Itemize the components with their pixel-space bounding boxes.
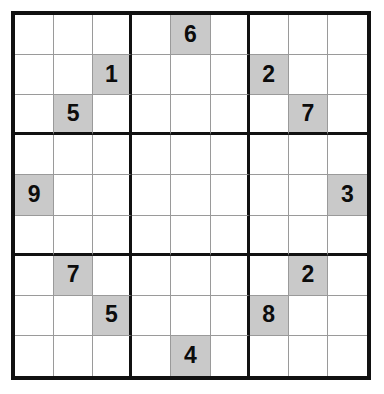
sudoku-cell-value: 2 [301,263,314,287]
sudoku-cell-empty[interactable] [15,95,54,135]
sudoku-cell-empty[interactable] [328,15,367,55]
sudoku-cell-given[interactable]: 7 [289,95,328,135]
sudoku-cell-empty[interactable] [211,175,250,215]
sudoku-cell-empty[interactable] [171,135,210,175]
sudoku-cell-empty[interactable] [250,216,289,256]
sudoku-cell-value: 1 [105,63,118,87]
sudoku-cell-empty[interactable] [15,15,54,55]
sudoku-cell-empty[interactable] [132,336,171,376]
sudoku-cell-empty[interactable] [54,216,93,256]
sudoku-cell-empty[interactable] [171,296,210,336]
sudoku-cell-given[interactable]: 6 [171,15,210,55]
sudoku-cell-empty[interactable] [289,135,328,175]
sudoku-cell-empty[interactable] [211,256,250,296]
sudoku-cell-empty[interactable] [15,336,54,376]
sudoku-cell-empty[interactable] [289,216,328,256]
sudoku-cell-empty[interactable] [171,95,210,135]
sudoku-cell-empty[interactable] [289,55,328,95]
sudoku-cell-empty[interactable] [132,296,171,336]
sudoku-cell-value: 8 [262,303,275,327]
sudoku-cell-empty[interactable] [93,95,132,135]
sudoku-cell-value: 5 [67,102,80,126]
sudoku-cell-value: 7 [67,263,80,287]
sudoku-cell-empty[interactable] [15,216,54,256]
sudoku-cell-empty[interactable] [211,216,250,256]
sudoku-cell-given[interactable]: 9 [15,175,54,215]
sudoku-cell-empty[interactable] [15,55,54,95]
sudoku-cell-empty[interactable] [15,135,54,175]
sudoku-cell-empty[interactable] [54,296,93,336]
sudoku-cell-empty[interactable] [250,135,289,175]
sudoku-cell-given[interactable]: 5 [93,296,132,336]
sudoku-cell-empty[interactable] [171,256,210,296]
sudoku-cell-empty[interactable] [171,55,210,95]
sudoku-cell-empty[interactable] [93,336,132,376]
sudoku-cell-empty[interactable] [93,216,132,256]
sudoku-cell-empty[interactable] [54,15,93,55]
sudoku-board: 612579372584 [11,11,371,380]
sudoku-cell-empty[interactable] [328,256,367,296]
sudoku-cell-empty[interactable] [211,336,250,376]
sudoku-grid: 612579372584 [15,15,367,376]
sudoku-puzzle-page: 612579372584 [0,0,384,394]
sudoku-cell-empty[interactable] [132,135,171,175]
sudoku-cell-empty[interactable] [132,95,171,135]
sudoku-cell-empty[interactable] [54,336,93,376]
sudoku-cell-value: 9 [28,183,41,207]
sudoku-cell-empty[interactable] [289,175,328,215]
sudoku-cell-empty[interactable] [250,95,289,135]
sudoku-cell-empty[interactable] [171,216,210,256]
sudoku-cell-value: 2 [262,63,275,87]
sudoku-cell-empty[interactable] [250,175,289,215]
sudoku-cell-value: 6 [184,23,197,47]
sudoku-cell-empty[interactable] [132,15,171,55]
sudoku-cell-given[interactable]: 7 [54,256,93,296]
sudoku-cell-given[interactable]: 3 [328,175,367,215]
sudoku-cell-empty[interactable] [54,55,93,95]
sudoku-cell-empty[interactable] [54,175,93,215]
sudoku-cell-empty[interactable] [171,175,210,215]
sudoku-cell-empty[interactable] [93,15,132,55]
sudoku-cell-empty[interactable] [15,296,54,336]
sudoku-cell-value: 4 [184,344,197,368]
sudoku-cell-empty[interactable] [211,95,250,135]
sudoku-cell-empty[interactable] [132,175,171,215]
sudoku-cell-empty[interactable] [289,296,328,336]
sudoku-cell-given[interactable]: 2 [250,55,289,95]
sudoku-cell-given[interactable]: 5 [54,95,93,135]
sudoku-cell-given[interactable]: 1 [93,55,132,95]
sudoku-cell-value: 5 [105,303,118,327]
sudoku-cell-empty[interactable] [328,55,367,95]
sudoku-cell-empty[interactable] [328,336,367,376]
sudoku-cell-given[interactable]: 2 [289,256,328,296]
sudoku-cell-empty[interactable] [289,336,328,376]
sudoku-cell-given[interactable]: 4 [171,336,210,376]
sudoku-cell-empty[interactable] [93,175,132,215]
sudoku-cell-empty[interactable] [250,256,289,296]
sudoku-cell-empty[interactable] [132,55,171,95]
sudoku-cell-empty[interactable] [93,135,132,175]
sudoku-cell-empty[interactable] [250,336,289,376]
sudoku-cell-empty[interactable] [289,15,328,55]
sudoku-cell-value: 3 [341,183,354,207]
sudoku-cell-empty[interactable] [211,135,250,175]
sudoku-cell-empty[interactable] [211,55,250,95]
sudoku-cell-value: 7 [301,102,314,126]
sudoku-cell-empty[interactable] [328,296,367,336]
sudoku-cell-empty[interactable] [211,296,250,336]
sudoku-cell-empty[interactable] [250,15,289,55]
sudoku-cell-empty[interactable] [15,256,54,296]
sudoku-cell-empty[interactable] [211,15,250,55]
sudoku-cell-empty[interactable] [54,135,93,175]
sudoku-cell-empty[interactable] [132,216,171,256]
sudoku-cell-empty[interactable] [132,256,171,296]
sudoku-cell-empty[interactable] [93,256,132,296]
sudoku-cell-given[interactable]: 8 [250,296,289,336]
sudoku-cell-empty[interactable] [328,135,367,175]
sudoku-cell-empty[interactable] [328,216,367,256]
sudoku-cell-empty[interactable] [328,95,367,135]
